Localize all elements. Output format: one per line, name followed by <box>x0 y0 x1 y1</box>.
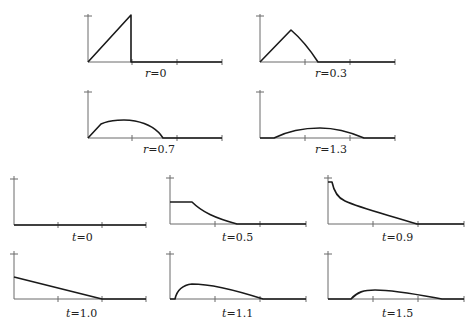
axes <box>84 14 222 65</box>
panel-r-0.7: r=0.7 <box>84 90 222 156</box>
curve <box>328 290 464 299</box>
panel-t-1.1: t=1.1 <box>166 251 306 320</box>
axes <box>10 251 146 302</box>
panel-label: r=0.3 <box>315 67 347 80</box>
axes <box>166 175 306 227</box>
panel-t-0.5: t=0.5 <box>166 175 306 244</box>
curve <box>328 182 464 224</box>
axes <box>256 90 395 141</box>
curve <box>260 128 395 138</box>
curve <box>170 284 306 299</box>
panel-t-1.5: t=1.5 <box>324 251 464 320</box>
panel-r-1.3: r=1.3 <box>256 90 395 156</box>
axes <box>256 14 395 65</box>
panel-t-1.0: t=1.0 <box>10 251 146 320</box>
curve <box>14 277 146 299</box>
panel-r-0.3: r=0.3 <box>256 14 395 80</box>
panel-label: r=0.7 <box>143 143 175 156</box>
figure-canvas: r=0 r=0.3 r=0.7 r=1.3 t=0 t=0.5 t=0.9 <box>0 0 472 331</box>
axes <box>84 90 222 141</box>
panel-label: t=0 <box>72 231 93 244</box>
panel-label: t=1.5 <box>382 307 413 320</box>
curve <box>170 202 306 224</box>
panel-label: t=1.0 <box>66 307 97 320</box>
panel-label: t=0.9 <box>382 231 413 244</box>
curve <box>260 30 395 62</box>
axes <box>10 176 146 228</box>
panel-label: t=0.5 <box>222 231 253 244</box>
axes <box>324 251 464 302</box>
curve <box>88 120 222 138</box>
panel-label: r=1.3 <box>315 143 347 156</box>
panel-t-0.9: t=0.9 <box>324 175 464 244</box>
curve <box>88 15 222 62</box>
panel-r-0: r=0 <box>84 14 222 80</box>
axes <box>166 251 306 302</box>
panel-label: r=0 <box>145 67 166 80</box>
panel-label: t=1.1 <box>222 307 253 320</box>
panel-t-0: t=0 <box>10 176 146 244</box>
